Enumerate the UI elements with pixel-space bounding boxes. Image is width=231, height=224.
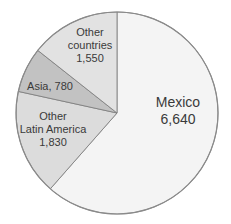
label-oc-line1: Other (62, 26, 118, 39)
label-asia-text: Asia, 780 (22, 80, 78, 93)
label-oc-line2: countries (62, 39, 118, 52)
label-mexico: Mexico 6,640 (138, 94, 218, 128)
label-ola-line2: Latin America (18, 123, 88, 136)
label-asia: Asia, 780 (22, 80, 78, 93)
label-other-countries: Other countries 1,550 (62, 26, 118, 65)
label-oc-value: 1,550 (62, 52, 118, 65)
label-ola-value: 1,830 (18, 136, 88, 149)
label-mexico-name: Mexico (138, 94, 218, 111)
label-ola-line1: Other (18, 110, 88, 123)
label-other-latin-america: Other Latin America 1,830 (18, 110, 88, 149)
label-mexico-value: 6,640 (138, 111, 218, 128)
